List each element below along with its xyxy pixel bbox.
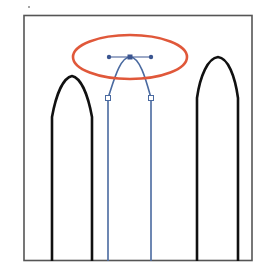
stray-dot [28,6,30,8]
right-handle-point[interactable] [149,55,153,59]
left-handle-point[interactable] [107,55,111,59]
top-anchor-point[interactable] [128,55,133,60]
left-anchor-point[interactable] [106,96,111,101]
diagram-canvas [0,0,273,279]
artboard-frame [24,16,252,261]
right-anchor-point[interactable] [149,96,154,101]
